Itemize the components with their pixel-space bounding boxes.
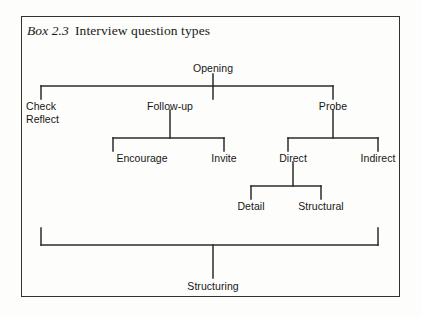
node-follow-up-label: Follow-up <box>147 100 193 112</box>
node-indirect: Indirect <box>361 152 396 165</box>
node-opening: Opening <box>193 62 233 75</box>
node-reflect-label: Reflect <box>26 113 59 126</box>
node-check-reflect: Check Reflect <box>26 100 59 126</box>
node-check-label: Check <box>26 100 59 113</box>
node-follow-up: Follow-up <box>147 100 193 113</box>
node-invite-label: Invite <box>211 152 236 164</box>
node-probe-label: Probe <box>319 100 347 112</box>
node-direct: Direct <box>279 152 307 165</box>
node-encourage: Encourage <box>116 152 167 165</box>
node-detail-label: Detail <box>237 200 264 212</box>
node-structuring-label: Structuring <box>187 280 238 292</box>
node-probe: Probe <box>319 100 347 113</box>
node-invite: Invite <box>211 152 236 165</box>
page-canvas: Box 2.3Interview question types <box>0 0 422 317</box>
node-detail: Detail <box>237 200 264 213</box>
node-direct-label: Direct <box>279 152 307 164</box>
node-encourage-label: Encourage <box>116 152 167 164</box>
node-opening-label: Opening <box>193 62 233 74</box>
node-indirect-label: Indirect <box>361 152 396 164</box>
node-structural-label: Structural <box>298 200 343 212</box>
node-structural: Structural <box>298 200 343 213</box>
node-structuring: Structuring <box>187 280 238 293</box>
